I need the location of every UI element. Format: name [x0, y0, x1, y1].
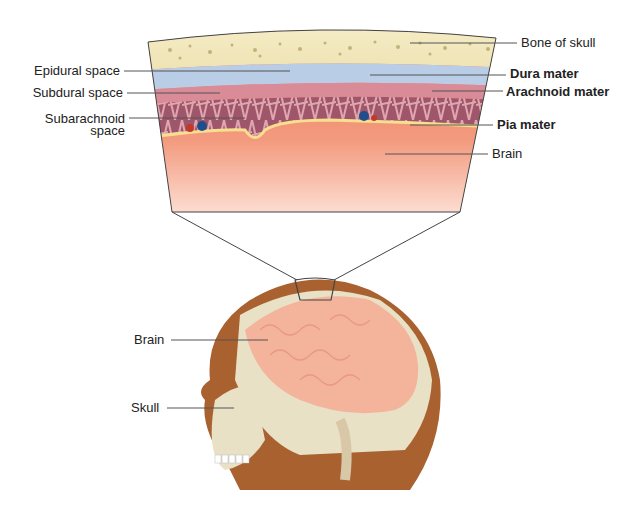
cross-section	[140, 20, 510, 220]
label-skull-head: Skull	[131, 401, 159, 415]
label-bone-of-skull: Bone of skull	[521, 36, 595, 50]
label-subarachnoid-space-line2: space	[30, 124, 125, 138]
label-brain-section: Brain	[492, 147, 522, 161]
label-dura-mater: Dura mater	[510, 67, 579, 81]
label-brain-head: Brain	[134, 333, 164, 347]
label-subdural-space: Subdural space	[16, 86, 123, 100]
label-epidural-space: Epidural space	[16, 64, 120, 78]
head-illustration	[201, 280, 441, 490]
label-arachnoid-mater: Arachnoid mater	[506, 85, 609, 99]
label-pia-mater: Pia mater	[497, 118, 556, 132]
